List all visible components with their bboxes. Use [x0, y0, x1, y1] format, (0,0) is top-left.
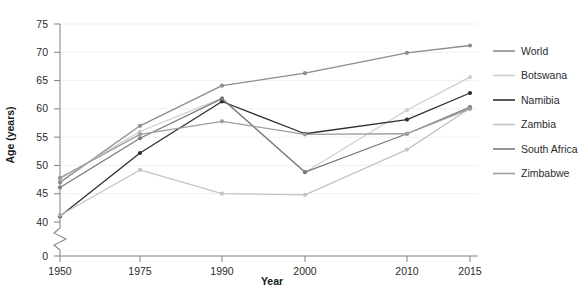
y-tick-label: 55: [36, 131, 48, 143]
data-point: [138, 151, 142, 155]
axes: [54, 24, 478, 262]
x-tick-label: 1990: [210, 265, 234, 277]
chart-container: 0404550556065707519501975199020002010201…: [0, 0, 581, 293]
y-tick-label: 65: [36, 74, 48, 86]
y-tick-label: 60: [36, 102, 48, 114]
legend-label-namibia: Namibia: [521, 94, 560, 106]
data-point: [303, 132, 307, 136]
data-point: [468, 43, 472, 47]
x-axis-title: Year: [261, 275, 283, 287]
data-point: [138, 132, 142, 136]
data-point: [405, 132, 409, 136]
line-chart: 0404550556065707519501975199020002010201…: [0, 0, 581, 293]
data-point: [405, 147, 409, 151]
x-tick-label: 2010: [395, 265, 419, 277]
data-point: [303, 71, 307, 75]
y-tick-label: 70: [36, 46, 48, 58]
legend-label-zambia: Zambia: [521, 118, 556, 130]
legend: WorldBotswanaNamibiaZambiaSouth AfricaZi…: [493, 45, 578, 180]
data-point: [468, 107, 472, 111]
legend-label-south-africa: South Africa: [521, 143, 578, 155]
data-point: [405, 51, 409, 55]
x-tick-label: 1975: [128, 265, 152, 277]
data-point: [220, 84, 224, 88]
tick-labels: 0404550556065707519501975199020002010201…: [36, 18, 482, 277]
data-point: [405, 118, 409, 122]
y-tick-label: 50: [36, 159, 48, 171]
data-point: [303, 193, 307, 197]
legend-label-zimbabwe: Zimbabwe: [521, 167, 570, 179]
legend-label-world: World: [521, 45, 548, 57]
data-point: [468, 75, 472, 79]
data-point: [468, 91, 472, 95]
x-tick-label: 1950: [48, 265, 72, 277]
data-point: [220, 97, 224, 101]
legend-label-botswana: Botswana: [521, 69, 567, 81]
y-tick-label: 0: [42, 250, 48, 262]
y-tick-label: 45: [36, 187, 48, 199]
axis-break-zigzag: [54, 228, 66, 250]
data-point: [138, 168, 142, 172]
series-group: [58, 43, 472, 218]
data-point: [138, 136, 142, 140]
series-line-zambia: [60, 108, 470, 215]
data-point: [405, 108, 409, 112]
data-point: [220, 192, 224, 196]
data-point: [303, 170, 307, 174]
series-line-world: [60, 45, 470, 182]
series-line-namibia: [60, 93, 470, 216]
x-tick-label: 2015: [458, 265, 482, 277]
data-point: [220, 119, 224, 123]
y-tick-label: 40: [36, 216, 48, 228]
x-tick-label: 2000: [293, 265, 317, 277]
y-axis-title: Age (years): [4, 106, 16, 163]
y-tick-label: 75: [36, 18, 48, 30]
data-point: [138, 124, 142, 128]
